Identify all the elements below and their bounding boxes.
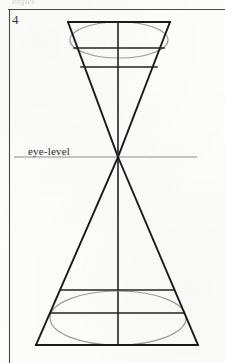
page-number: 4 <box>12 13 19 26</box>
notebook-page: angles 4 eye-level <box>0 0 225 363</box>
lower-right-side <box>118 157 198 345</box>
eye-level-label: eye-level <box>28 145 70 157</box>
upper-ellipse <box>70 22 168 58</box>
upper-right-side <box>118 22 170 157</box>
perspective-cone-diagram <box>0 0 225 363</box>
upper-left-side <box>68 22 118 157</box>
lower-left-side <box>36 157 118 345</box>
faint-header-text: angles <box>12 0 35 6</box>
